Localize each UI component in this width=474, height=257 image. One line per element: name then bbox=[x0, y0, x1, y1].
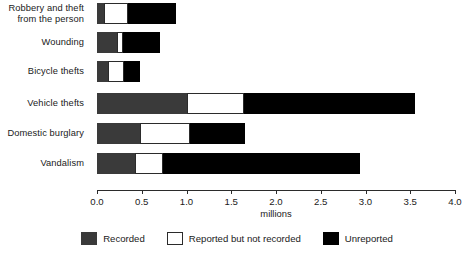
bar-segment-reported-but-not-recorded bbox=[104, 3, 128, 24]
bar-row bbox=[97, 3, 455, 24]
bar-segment-reported-but-not-recorded bbox=[108, 61, 124, 82]
stacked-bar-chart: Robbery and theftfrom the personWounding… bbox=[0, 0, 474, 257]
category-label-line: Bicycle thefts bbox=[0, 66, 84, 77]
category-label: Vandalism bbox=[0, 158, 84, 169]
category-label: Wounding bbox=[0, 37, 84, 48]
x-axis-tick-label: 1.5 bbox=[211, 196, 251, 207]
category-label: Domestic burglary bbox=[0, 128, 84, 139]
bar-row bbox=[97, 153, 455, 174]
bar-segment-recorded bbox=[97, 153, 135, 174]
x-axis-tick-label: 0.5 bbox=[122, 196, 162, 207]
bar-row bbox=[97, 32, 455, 53]
category-label-line: Robbery and theft bbox=[0, 3, 84, 14]
category-label: Vehicle thefts bbox=[0, 98, 84, 109]
category-label-line: Vehicle thefts bbox=[0, 98, 84, 109]
bar-segment-unreported bbox=[128, 3, 175, 24]
x-axis-tick-label: 3.0 bbox=[346, 196, 386, 207]
category-label: Robbery and theftfrom the person bbox=[0, 3, 84, 25]
bar-segment-recorded bbox=[97, 32, 117, 53]
category-label-line: Domestic burglary bbox=[0, 128, 84, 139]
legend-label: Reported but not recorded bbox=[189, 233, 301, 244]
bar-segment-recorded bbox=[97, 93, 187, 114]
bar-segment-recorded bbox=[97, 61, 108, 82]
bar-segment-reported-but-not-recorded bbox=[187, 93, 244, 114]
x-axis-tick-label: 4.0 bbox=[435, 196, 474, 207]
x-axis-tick bbox=[366, 190, 367, 194]
bar-segment-recorded bbox=[97, 123, 140, 144]
legend-item[interactable]: Reported but not recorded bbox=[167, 232, 301, 245]
plot-area: 0.00.51.01.52.02.53.03.54.0 millions bbox=[97, 0, 455, 190]
bar-segment-unreported bbox=[244, 93, 415, 114]
x-axis-title: millions bbox=[97, 208, 455, 219]
legend-swatch-icon bbox=[167, 232, 183, 245]
bar-row bbox=[97, 93, 455, 114]
category-label: Bicycle thefts bbox=[0, 66, 84, 77]
legend-item[interactable]: Recorded bbox=[81, 232, 145, 245]
bar-segment-reported-but-not-recorded bbox=[140, 123, 190, 144]
x-axis-tick bbox=[455, 190, 456, 194]
legend-item[interactable]: Unreported bbox=[323, 232, 393, 245]
x-axis-tick-label: 2.5 bbox=[301, 196, 341, 207]
legend-swatch-icon bbox=[323, 232, 339, 245]
category-label-line: from the person bbox=[0, 14, 84, 25]
bar-row bbox=[97, 123, 455, 144]
legend-label: Recorded bbox=[103, 233, 145, 244]
legend-swatch-icon bbox=[81, 232, 97, 245]
category-label-line: Wounding bbox=[0, 37, 84, 48]
bar-row bbox=[97, 61, 455, 82]
x-axis-tick bbox=[142, 190, 143, 194]
category-label-line: Vandalism bbox=[0, 158, 84, 169]
x-axis-tick bbox=[321, 190, 322, 194]
x-axis-tick-label: 2.0 bbox=[256, 196, 296, 207]
legend-label: Unreported bbox=[345, 233, 393, 244]
chart-legend: RecordedReported but not recordedUnrepor… bbox=[0, 232, 474, 245]
bar-segment-unreported bbox=[124, 61, 140, 82]
x-axis-tick bbox=[276, 190, 277, 194]
bar-segment-unreported bbox=[123, 32, 160, 53]
x-axis-tick bbox=[97, 190, 98, 194]
bar-segment-reported-but-not-recorded bbox=[135, 153, 164, 174]
x-axis-tick bbox=[410, 190, 411, 194]
bar-segment-recorded bbox=[97, 3, 104, 24]
x-axis-tick-label: 0.0 bbox=[77, 196, 117, 207]
x-axis-tick-label: 3.5 bbox=[390, 196, 430, 207]
x-axis-tick-label: 1.0 bbox=[167, 196, 207, 207]
bar-segment-unreported bbox=[190, 123, 245, 144]
category-axis-labels: Robbery and theftfrom the personWounding… bbox=[0, 0, 90, 190]
x-axis-tick bbox=[231, 190, 232, 194]
bar-segment-unreported bbox=[163, 153, 360, 174]
x-axis-tick bbox=[187, 190, 188, 194]
